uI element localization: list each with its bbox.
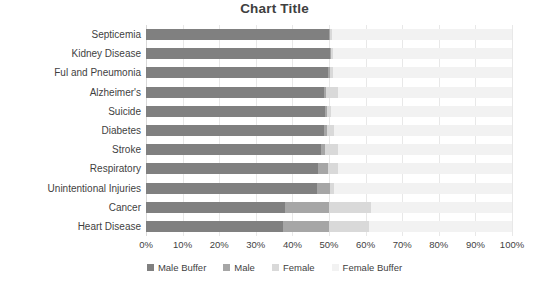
x-axis-tick-label: 100%: [500, 238, 524, 251]
bar-segment[interactable]: [146, 202, 285, 213]
bar-row[interactable]: [146, 29, 512, 40]
bar-row[interactable]: [146, 67, 512, 78]
legend-swatch-icon: [332, 264, 339, 271]
bar-segment[interactable]: [146, 106, 325, 117]
legend-label: Female Buffer: [343, 262, 403, 273]
bar-row[interactable]: [146, 202, 512, 213]
x-axis-tick-label: 80%: [429, 238, 448, 251]
y-axis-label: Stroke: [0, 144, 141, 155]
bar-segment[interactable]: [331, 106, 512, 117]
bar-row[interactable]: [146, 125, 512, 136]
bar-segment[interactable]: [146, 125, 324, 136]
bar-segment[interactable]: [325, 144, 338, 155]
y-axis-label: Suicide: [0, 106, 141, 117]
legend-label: Female: [283, 262, 315, 273]
bar-row[interactable]: [146, 183, 512, 194]
bar-segment[interactable]: [334, 125, 512, 136]
x-axis-tick-label: 90%: [466, 238, 485, 251]
bar-segment[interactable]: [146, 29, 329, 40]
x-axis-tick-label: 30%: [246, 238, 265, 251]
bar-segment[interactable]: [333, 67, 512, 78]
bar-row[interactable]: [146, 163, 512, 174]
bar-series-group: [146, 25, 512, 236]
y-axis-label: Septicemia: [0, 29, 141, 40]
legend-swatch-icon: [223, 264, 230, 271]
bar-segment[interactable]: [146, 163, 318, 174]
bar-segment[interactable]: [317, 183, 330, 194]
bar-segment[interactable]: [371, 202, 512, 213]
legend-item[interactable]: Female: [272, 262, 315, 273]
legend-label: Male Buffer: [158, 262, 206, 273]
bar-segment[interactable]: [327, 125, 335, 136]
bar-row[interactable]: [146, 144, 512, 155]
plot-area: [146, 25, 512, 236]
x-axis-tick-label: 70%: [393, 238, 412, 251]
bar-segment[interactable]: [146, 48, 330, 59]
bar-row[interactable]: [146, 221, 512, 232]
bar-segment[interactable]: [146, 87, 324, 98]
x-axis-tick-label: 10%: [173, 238, 192, 251]
y-axis-label: Ful and Pneumonia: [0, 67, 141, 78]
bar-segment[interactable]: [329, 202, 371, 213]
y-axis-label: Diabetes: [0, 125, 141, 136]
bar-segment[interactable]: [338, 163, 512, 174]
bar-segment[interactable]: [334, 183, 512, 194]
bar-row[interactable]: [146, 106, 512, 117]
x-axis-tick-label: 60%: [356, 238, 375, 251]
legend-swatch-icon: [272, 264, 279, 271]
bar-segment[interactable]: [146, 67, 328, 78]
gridline-100: [512, 25, 513, 236]
legend-label: Male: [234, 262, 255, 273]
chart-legend: Male BufferMaleFemaleFemale Buffer: [0, 259, 549, 275]
bar-row[interactable]: [146, 48, 512, 59]
bar-segment[interactable]: [318, 163, 329, 174]
y-axis-label: Unintentional Injuries: [0, 183, 141, 194]
bar-segment[interactable]: [369, 221, 512, 232]
y-axis-label: Alzheimer's: [0, 87, 141, 98]
chart-container: Chart Title SepticemiaKidney DiseaseFul …: [0, 0, 549, 283]
bar-segment[interactable]: [329, 221, 369, 232]
bar-segment[interactable]: [338, 144, 512, 155]
chart-title: Chart Title: [0, 1, 549, 16]
x-axis-tick-label: 0%: [139, 238, 153, 251]
bar-segment[interactable]: [146, 183, 317, 194]
bar-segment[interactable]: [283, 221, 329, 232]
bar-segment[interactable]: [146, 221, 283, 232]
bar-segment[interactable]: [328, 163, 338, 174]
legend-item[interactable]: Male: [223, 262, 255, 273]
legend-item[interactable]: Male Buffer: [147, 262, 206, 273]
y-axis-label: Kidney Disease: [0, 48, 141, 59]
bar-segment[interactable]: [285, 202, 329, 213]
y-axis-category-labels: SepticemiaKidney DiseaseFul and Pneumoni…: [0, 25, 141, 236]
bar-row[interactable]: [146, 87, 512, 98]
legend-item[interactable]: Female Buffer: [332, 262, 403, 273]
y-axis-label: Respiratory: [0, 163, 141, 174]
x-axis-tick-label: 40%: [283, 238, 302, 251]
bar-segment[interactable]: [146, 144, 321, 155]
x-axis-tick-labels: 0%10%20%30%40%50%60%70%80%90%100%: [146, 238, 512, 252]
y-axis-label: Cancer: [0, 202, 141, 213]
y-axis-label: Heart Disease: [0, 221, 141, 232]
x-axis-tick-label: 20%: [210, 238, 229, 251]
legend-swatch-icon: [147, 264, 154, 271]
bar-segment[interactable]: [338, 87, 512, 98]
bar-segment[interactable]: [333, 48, 512, 59]
bar-segment[interactable]: [332, 29, 512, 40]
bar-segment[interactable]: [326, 87, 338, 98]
x-axis-tick-label: 50%: [319, 238, 338, 251]
